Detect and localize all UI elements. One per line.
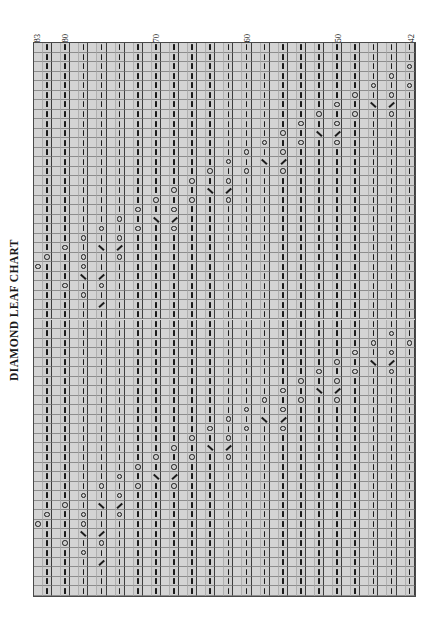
chart-cell[interactable] — [315, 586, 324, 596]
chart-cell[interactable] — [143, 110, 152, 120]
chart-cell[interactable] — [143, 377, 152, 387]
chart-cell[interactable] — [324, 510, 333, 520]
chart-cell[interactable] — [197, 72, 206, 82]
chart-cell[interactable] — [378, 310, 387, 320]
chart-cell[interactable] — [215, 148, 224, 158]
chart-cell[interactable] — [152, 367, 161, 377]
chart-cell[interactable] — [61, 81, 70, 91]
chart-cell[interactable] — [360, 100, 369, 110]
chart-cell[interactable] — [233, 453, 242, 463]
chart-cell[interactable] — [315, 234, 324, 244]
chart-cell[interactable] — [315, 205, 324, 215]
chart-cell[interactable] — [179, 167, 188, 177]
chart-cell[interactable] — [297, 586, 306, 596]
chart-cell[interactable] — [197, 539, 206, 549]
chart-cell[interactable] — [107, 72, 116, 82]
chart-cell[interactable] — [79, 215, 88, 225]
chart-cell[interactable] — [88, 91, 97, 101]
chart-cell[interactable] — [125, 300, 134, 310]
chart-cell[interactable] — [161, 148, 170, 158]
chart-cell[interactable] — [261, 224, 270, 234]
chart-cell[interactable] — [134, 453, 143, 463]
chart-cell[interactable] — [324, 348, 333, 358]
chart-cell[interactable] — [88, 129, 97, 139]
chart-cell[interactable] — [125, 339, 134, 349]
chart-cell[interactable] — [161, 167, 170, 177]
chart-cell[interactable] — [333, 520, 342, 530]
chart-cell[interactable] — [333, 205, 342, 215]
chart-cell[interactable] — [52, 567, 61, 577]
chart-cell[interactable] — [134, 224, 143, 234]
chart-cell[interactable] — [206, 558, 215, 568]
chart-cell[interactable] — [297, 491, 306, 501]
chart-cell[interactable] — [34, 367, 43, 377]
chart-cell[interactable] — [342, 520, 351, 530]
chart-cell[interactable] — [134, 62, 143, 72]
chart-cell[interactable] — [61, 291, 70, 301]
chart-cell[interactable] — [261, 100, 270, 110]
chart-cell[interactable] — [161, 310, 170, 320]
chart-cell[interactable] — [215, 253, 224, 263]
chart-cell[interactable] — [61, 567, 70, 577]
chart-cell[interactable] — [270, 424, 279, 434]
chart-cell[interactable] — [79, 262, 88, 272]
chart-cell[interactable] — [161, 510, 170, 520]
chart-cell[interactable] — [161, 253, 170, 263]
chart-cell[interactable] — [279, 539, 288, 549]
chart-cell[interactable] — [143, 386, 152, 396]
chart-cell[interactable] — [315, 510, 324, 520]
chart-cell[interactable] — [315, 463, 324, 473]
chart-cell[interactable] — [34, 548, 43, 558]
chart-cell[interactable] — [224, 358, 233, 368]
chart-cell[interactable] — [297, 138, 306, 148]
chart-cell[interactable] — [279, 577, 288, 587]
chart-cell[interactable] — [179, 43, 188, 53]
chart-cell[interactable] — [161, 567, 170, 577]
chart-cell[interactable] — [70, 43, 79, 53]
chart-cell[interactable] — [242, 176, 251, 186]
chart-cell[interactable] — [179, 81, 188, 91]
chart-cell[interactable] — [143, 253, 152, 263]
chart-cell[interactable] — [215, 367, 224, 377]
chart-cell[interactable] — [369, 501, 378, 511]
chart-cell[interactable] — [297, 262, 306, 272]
chart-cell[interactable] — [324, 482, 333, 492]
chart-cell[interactable] — [233, 272, 242, 282]
chart-cell[interactable] — [107, 253, 116, 263]
chart-cell[interactable] — [406, 262, 415, 272]
chart-cell[interactable] — [288, 339, 297, 349]
chart-cell[interactable] — [306, 91, 315, 101]
chart-cell[interactable] — [97, 472, 106, 482]
chart-cell[interactable] — [61, 234, 70, 244]
chart-cell[interactable] — [270, 224, 279, 234]
chart-cell[interactable] — [279, 567, 288, 577]
chart-cell[interactable] — [233, 148, 242, 158]
chart-cell[interactable] — [107, 148, 116, 158]
chart-cell[interactable] — [179, 253, 188, 263]
chart-cell[interactable] — [197, 157, 206, 167]
chart-cell[interactable] — [215, 396, 224, 406]
chart-cell[interactable] — [315, 148, 324, 158]
chart-cell[interactable] — [34, 129, 43, 139]
chart-cell[interactable] — [79, 520, 88, 530]
chart-cell[interactable] — [143, 453, 152, 463]
chart-cell[interactable] — [170, 367, 179, 377]
chart-cell[interactable] — [306, 53, 315, 63]
chart-cell[interactable] — [233, 72, 242, 82]
chart-cell[interactable] — [152, 72, 161, 82]
chart-cell[interactable] — [61, 548, 70, 558]
chart-cell[interactable] — [333, 272, 342, 282]
chart-cell[interactable] — [70, 262, 79, 272]
chart-cell[interactable] — [197, 310, 206, 320]
chart-cell[interactable] — [143, 157, 152, 167]
chart-cell[interactable] — [61, 577, 70, 587]
chart-cell[interactable] — [79, 529, 88, 539]
chart-cell[interactable] — [288, 577, 297, 587]
chart-cell[interactable] — [52, 262, 61, 272]
chart-cell[interactable] — [197, 472, 206, 482]
chart-cell[interactable] — [233, 567, 242, 577]
chart-cell[interactable] — [116, 443, 125, 453]
chart-cell[interactable] — [197, 91, 206, 101]
chart-cell[interactable] — [397, 138, 406, 148]
chart-cell[interactable] — [52, 253, 61, 263]
